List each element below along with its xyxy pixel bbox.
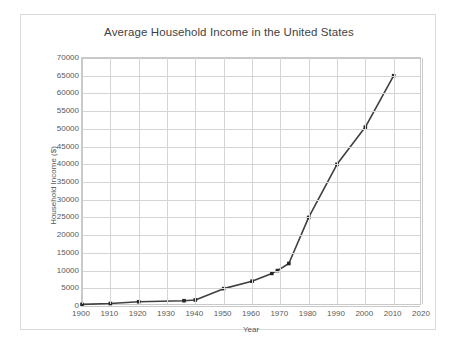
y-axis-tick-label: 20000 [23, 230, 79, 239]
y-axis-tick-label: 65000 [23, 70, 79, 79]
plot-area [81, 57, 421, 305]
chart-title: Average Household Income in the United S… [21, 26, 437, 38]
gridline-horizontal [82, 235, 420, 236]
gridline-horizontal [82, 271, 420, 272]
gridline-horizontal [82, 58, 420, 59]
gridline-vertical [82, 58, 83, 304]
x-axis-title: Year [81, 325, 421, 334]
gridline-horizontal [82, 182, 420, 183]
gridline-vertical [110, 58, 111, 304]
y-axis-tick-label: 5000 [23, 283, 79, 292]
y-axis-tick-label: 15000 [23, 247, 79, 256]
gridline-horizontal [82, 76, 420, 77]
gridline-vertical [309, 58, 310, 304]
gridline-horizontal [82, 288, 420, 289]
gridline-vertical [280, 58, 281, 304]
y-axis-tick-label: 35000 [23, 177, 79, 186]
gridline-vertical [252, 58, 253, 304]
data-point-marker [270, 272, 274, 276]
gridline-vertical [195, 58, 196, 304]
gridline-vertical [337, 58, 338, 304]
gridline-horizontal [82, 93, 420, 94]
gridline-horizontal [82, 164, 420, 165]
gridline-horizontal [82, 200, 420, 201]
gridline-vertical [422, 58, 423, 304]
gridline-vertical [224, 58, 225, 304]
y-axis-tick-label: 50000 [23, 123, 79, 132]
gridline-horizontal [82, 129, 420, 130]
y-axis-tick-label: 25000 [23, 212, 79, 221]
data-point-marker [287, 262, 291, 266]
y-axis-tick-label: 10000 [23, 265, 79, 274]
chart-container: Average Household Income in the United S… [20, 14, 436, 330]
gridline-vertical [167, 58, 168, 304]
y-axis-tick-labels: 0500010000150002000025000300003500040000… [21, 57, 79, 305]
gridline-vertical [139, 58, 140, 304]
y-axis-tick-label: 30000 [23, 194, 79, 203]
gridline-horizontal [82, 111, 420, 112]
y-axis-tick-label: 45000 [23, 141, 79, 150]
y-axis-tick-label: 60000 [23, 88, 79, 97]
gridline-horizontal [82, 306, 420, 307]
x-axis-tick-label: 2020 [401, 309, 441, 318]
gridline-horizontal [82, 253, 420, 254]
x-axis-tick-labels: 1900191019201930194019501960197019801990… [81, 309, 421, 323]
y-axis-tick-label: 70000 [23, 53, 79, 62]
gridline-horizontal [82, 147, 420, 148]
y-axis-tick-label: 55000 [23, 106, 79, 115]
y-axis-tick-label: 40000 [23, 159, 79, 168]
gridline-vertical [365, 58, 366, 304]
gridline-horizontal [82, 217, 420, 218]
data-point-marker [182, 299, 186, 303]
gridline-vertical [394, 58, 395, 304]
